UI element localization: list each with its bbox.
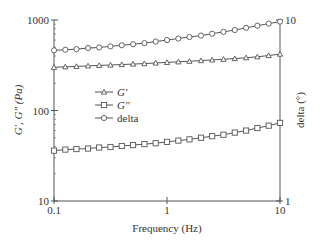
circle-marker [232,27,237,32]
y-tick-label-left: 100 [33,105,50,117]
square-marker [97,145,102,150]
legend-label: delta [117,112,138,124]
series-G-storage [51,51,282,69]
square-marker [153,141,158,146]
circle-marker [164,37,169,42]
series-G-loss [51,120,282,153]
rheology-chart: 0.1110101001000110 G′G″delta Frequency (… [0,0,322,241]
circle-marker [85,45,90,50]
circle-marker [101,115,106,120]
circle-marker [187,34,192,39]
circle-marker [266,21,271,26]
chart-container: 0.1110101001000110 G′G″delta Frequency (… [0,0,322,241]
x-axis-label: Frequency (Hz) [132,222,202,235]
square-marker [63,147,68,152]
circle-marker [153,39,158,44]
circle-marker [63,47,68,52]
y-tick-label-left: 1000 [27,14,50,26]
square-marker [101,102,106,107]
legend: G′G″delta [95,86,138,124]
x-tick-label: 1 [164,204,170,216]
square-marker [221,132,226,137]
circle-marker [277,19,282,24]
legend-label: G″ [117,99,130,111]
square-marker [232,130,237,135]
square-marker [51,148,56,153]
y-tick-label-right: 1 [285,195,291,207]
y-tick-label-left: 10 [38,195,50,207]
square-marker [164,139,169,144]
square-marker [277,120,282,125]
circle-marker [243,25,248,30]
square-marker [243,128,248,133]
legend-label: G′ [117,86,128,98]
circle-marker [97,45,102,50]
square-marker [119,143,124,148]
circle-marker [119,43,124,48]
series-delta [51,19,282,53]
circle-marker [108,44,113,49]
square-marker [266,123,271,128]
series-layer [51,19,282,153]
y-axis-label-left: G′, G″ (Pa) [12,84,25,135]
square-marker [210,134,215,139]
square-marker [108,144,113,149]
square-marker [130,142,135,147]
square-marker [198,135,203,140]
square-marker [255,125,260,130]
circle-marker [74,47,79,52]
circle-marker [198,33,203,38]
axes: 0.1110101001000110 [27,14,297,216]
circle-marker [221,29,226,34]
circle-marker [210,31,215,36]
square-marker [74,146,79,151]
square-marker [176,138,181,143]
square-marker [187,137,192,142]
circle-marker [176,36,181,41]
y-axis-label-right: delta (°) [294,92,307,128]
circle-marker [130,42,135,47]
circle-marker [142,41,147,46]
circle-marker [51,48,56,53]
circle-marker [255,23,260,28]
x-tick-label: 0.1 [47,204,61,216]
y-tick-label-right: 10 [285,14,297,26]
square-marker [85,146,90,151]
square-marker [142,142,147,147]
